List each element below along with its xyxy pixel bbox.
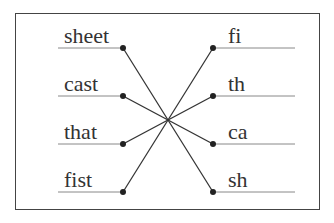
dot-left-3[interactable] [120, 141, 126, 147]
left-word-1: sheet [64, 25, 109, 47]
dot-right-4[interactable] [210, 189, 216, 195]
dot-left-2[interactable] [120, 93, 126, 99]
right-word-1: fi [228, 25, 241, 47]
dot-right-3[interactable] [210, 141, 216, 147]
right-word-2: th [228, 73, 245, 95]
left-word-2: cast [64, 73, 98, 95]
dot-right-1[interactable] [210, 45, 216, 51]
dot-left-4[interactable] [120, 189, 126, 195]
left-word-4: fist [64, 169, 92, 191]
left-word-3: that [64, 121, 97, 143]
dot-left-1[interactable] [120, 45, 126, 51]
right-word-3: ca [228, 121, 248, 143]
right-word-4: sh [228, 169, 248, 191]
dot-right-2[interactable] [210, 93, 216, 99]
connection-lines [0, 0, 334, 223]
